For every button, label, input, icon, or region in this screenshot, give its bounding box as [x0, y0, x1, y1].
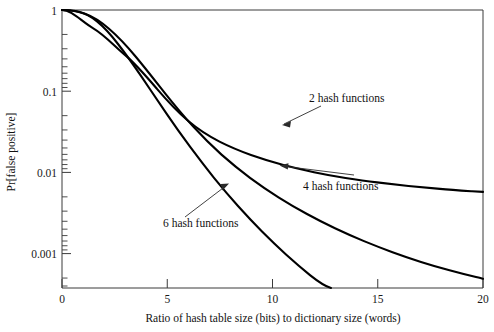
x-tick-label: 5: [164, 293, 170, 305]
series-label-2-hash: 2 hash functions: [309, 92, 385, 104]
y-axis-title: Pr[false positive]: [5, 113, 18, 192]
y-axis-ticks: [62, 10, 71, 286]
curve-2-hash: [62, 10, 483, 192]
y-tick-label: 0.1: [43, 86, 58, 98]
x-tick-label: 20: [477, 293, 489, 305]
x-tick-label: 0: [59, 293, 65, 305]
series-curves: [62, 10, 483, 288]
curve-6-hash: [62, 10, 331, 288]
chart-canvas: 1 0.1 0.01 0.001 0 5 10 15 20 Ratio of h…: [0, 0, 494, 332]
x-tick-labels: 0 5 10 15 20: [59, 293, 489, 305]
curve-4-hash: [62, 10, 483, 279]
y-tick-labels: 1 0.1 0.01 0.001: [31, 5, 57, 261]
y-tick-label: 0.001: [31, 248, 57, 260]
series-label-4-hash: 4 hash functions: [303, 180, 379, 192]
x-tick-label: 15: [372, 293, 384, 305]
x-axis-ticks: [62, 279, 483, 288]
series-label-6-hash: 6 hash functions: [163, 217, 239, 229]
x-axis-title: Ratio of hash table size (bits) to dicti…: [145, 312, 400, 325]
y-tick-label: 0.01: [37, 167, 57, 179]
y-tick-label: 1: [51, 5, 57, 17]
chart-figure: 1 0.1 0.01 0.001 0 5 10 15 20 Ratio of h…: [0, 0, 494, 332]
x-tick-label: 10: [267, 293, 279, 305]
